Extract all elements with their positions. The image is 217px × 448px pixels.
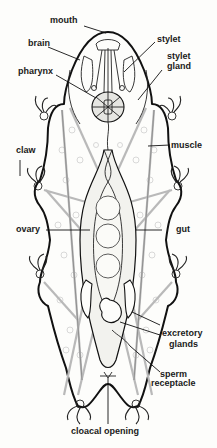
label-excretory-glands-2: glands — [169, 339, 198, 349]
label-pharynx: pharynx — [18, 66, 53, 76]
label-stylet-gland-1: stylet — [167, 51, 191, 61]
label-ovary: ovary — [16, 224, 40, 234]
claw-right-3 — [169, 254, 186, 278]
tardigrade-diagram: mouth brain stylet stylet gland pharynx … — [0, 0, 217, 448]
egg — [96, 196, 120, 220]
label-mouth: mouth — [50, 15, 78, 25]
egg — [96, 224, 120, 248]
label-stylet: stylet — [157, 34, 181, 44]
egg — [96, 254, 120, 278]
label-stylet-gland-2: gland — [167, 61, 191, 71]
label-excretory-glands-1: excretory — [162, 328, 203, 338]
claw-left-3 — [29, 254, 46, 278]
label-sperm-receptacle-2: receptacle — [151, 378, 196, 388]
label-claw: claw — [16, 145, 37, 155]
label-cloacal-opening: cloacal opening — [71, 426, 139, 436]
label-gut: gut — [176, 224, 190, 234]
label-brain: brain — [28, 38, 50, 48]
label-muscle: muscle — [171, 140, 202, 150]
